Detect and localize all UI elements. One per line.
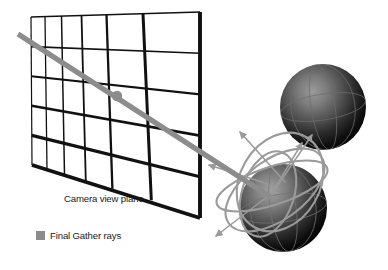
final-gather-diagram: Camera view plane Final Gather rays: [0, 0, 388, 270]
grid-vertical-lines: [31, 12, 200, 218]
camera-view-plane-label: Camera view plane: [64, 194, 144, 204]
legend: Final Gather rays: [36, 231, 121, 241]
ray-grid-intersection-point: [112, 91, 122, 101]
gray-square-swatch-icon: [36, 231, 45, 240]
upper-sphere: [278, 60, 367, 155]
legend-final-gather-label: Final Gather rays: [50, 231, 121, 241]
camera-view-plane-grid: [31, 12, 200, 218]
grid-horizontal-lines: [31, 12, 200, 218]
